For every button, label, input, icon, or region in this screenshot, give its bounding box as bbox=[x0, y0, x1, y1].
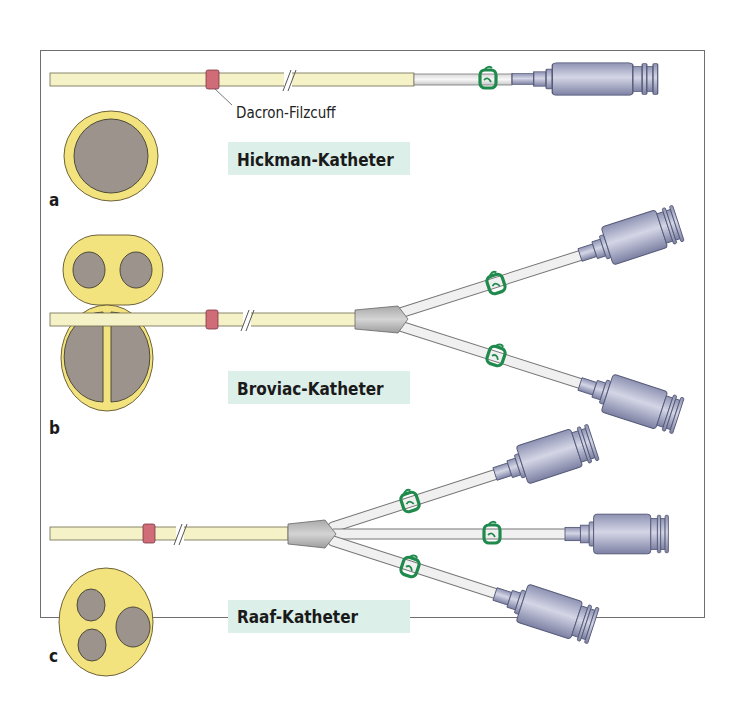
cuff-leader-line bbox=[215, 89, 232, 105]
cross-section-single-lumen bbox=[64, 111, 158, 201]
trifurcation-hub bbox=[288, 520, 336, 548]
panel-letter: b bbox=[49, 418, 60, 438]
dacron-cuff bbox=[143, 524, 155, 543]
extension-leg-lower bbox=[400, 326, 684, 435]
panel-a: Dacron-Filzcuff Hickman-Katheter a bbox=[49, 63, 658, 210]
catheter-diagram: Dacron-Filzcuff Hickman-Katheter a bbox=[0, 0, 731, 707]
bifurcation-hub bbox=[355, 306, 408, 333]
panel-letter: c bbox=[49, 646, 58, 666]
dacron-cuff bbox=[206, 310, 218, 329]
catheter-name: Raaf-Katheter bbox=[237, 607, 359, 627]
catheter-name: Hickman-Katheter bbox=[237, 150, 394, 170]
panel-letter: a bbox=[49, 190, 59, 210]
catheter-shaft bbox=[50, 313, 356, 326]
extension-leg-upper bbox=[400, 204, 684, 313]
catheter-shaft bbox=[50, 73, 414, 86]
panel-c: Raaf-Katheter c bbox=[49, 423, 668, 676]
extension-leg-upper bbox=[333, 423, 599, 527]
panel-b: Broviac-Katheter b bbox=[49, 204, 684, 438]
catheter-name: Broviac-Katheter bbox=[237, 379, 384, 399]
dacron-cuff bbox=[206, 70, 219, 89]
cuff-label: Dacron-Filzcuff bbox=[236, 104, 336, 122]
extension-leg-middle bbox=[333, 514, 668, 554]
catheter-shaft bbox=[50, 527, 288, 540]
cross-section-triple-lumen bbox=[59, 568, 153, 676]
connector-icon bbox=[512, 63, 658, 95]
cross-section-double-lumen bbox=[63, 235, 163, 305]
